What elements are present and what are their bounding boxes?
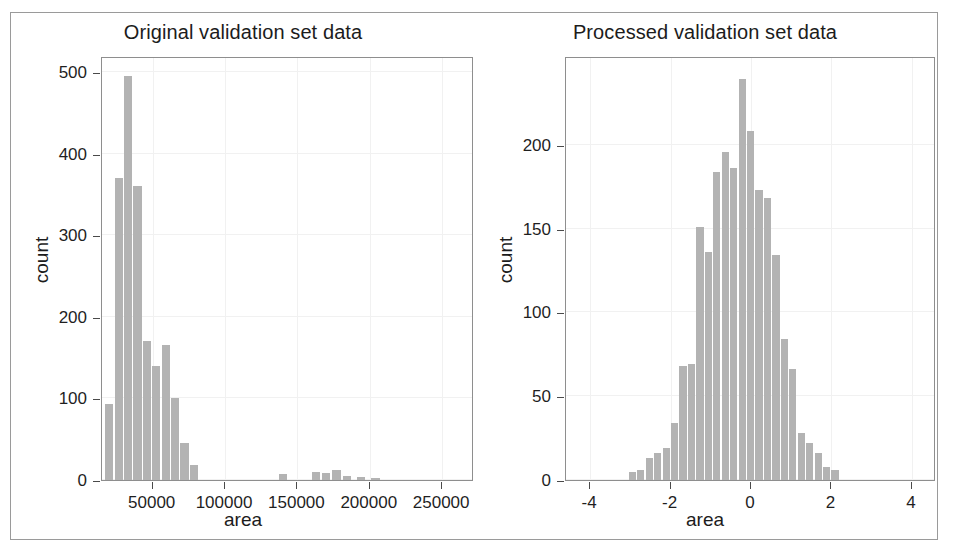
histogram-bar (152, 366, 160, 480)
histogram-bar (831, 470, 838, 480)
histogram-bar (312, 472, 320, 480)
histogram-bar (143, 341, 151, 480)
histogram-bar (823, 467, 830, 480)
histogram-bar (637, 470, 644, 480)
histogram-bar (764, 198, 771, 480)
y-tick-mark (93, 236, 100, 237)
gridline-vertical (831, 58, 832, 480)
y-tick-mark (93, 399, 100, 400)
histogram-bar (755, 190, 762, 480)
histogram-bar (190, 465, 198, 480)
histogram-bar (279, 474, 287, 480)
plot-inner-original (102, 58, 472, 480)
x-tick-mark (589, 482, 590, 489)
chart-title-processed: Processed validation set data (473, 21, 937, 44)
chart-panel-processed: Processed validation set data 0501001502… (473, 13, 937, 539)
y-tick-mark (93, 318, 100, 319)
chart-panel-original: Original validation set data 01002003004… (11, 13, 475, 539)
gridline-horizontal (102, 234, 472, 235)
y-tick-label: 200 (59, 308, 87, 328)
histogram-bar (679, 366, 686, 480)
y-tick-mark (93, 73, 100, 74)
y-tick-mark (557, 146, 564, 147)
histogram-bar (171, 398, 179, 480)
plot-area-original (101, 57, 473, 481)
chart-title-original: Original validation set data (11, 21, 475, 44)
histogram-bar (162, 345, 170, 480)
histogram-bar (646, 458, 653, 480)
gridline-vertical (590, 58, 591, 480)
histogram-bar (332, 470, 340, 480)
x-tick-mark (911, 482, 912, 489)
histogram-bar (357, 477, 365, 480)
y-tick-label: 100 (523, 303, 551, 323)
y-tick-label: 400 (59, 145, 87, 165)
gridline-vertical (671, 58, 672, 480)
x-tick-mark (152, 482, 153, 489)
histogram-bar (629, 472, 636, 480)
x-axis-label-original: area (11, 509, 475, 531)
x-tick-mark (830, 482, 831, 489)
x-tick-mark (369, 482, 370, 489)
y-tick-label: 300 (59, 226, 87, 246)
y-tick-label: 150 (523, 220, 551, 240)
histogram-bar (671, 423, 678, 480)
histogram-bar (654, 453, 661, 480)
histogram-bar (730, 168, 737, 480)
histogram-bar (115, 178, 123, 480)
figure-frame: Original validation set data 01002003004… (10, 12, 938, 540)
histogram-bar (371, 478, 379, 480)
x-axis-label-processed: area (473, 509, 937, 531)
x-tick-mark (441, 482, 442, 489)
plot-area-processed (565, 57, 935, 481)
histogram-bar (124, 76, 132, 480)
x-tick-mark (750, 482, 751, 489)
y-tick-label: 50 (532, 387, 551, 407)
histogram-bar (739, 79, 746, 480)
histogram-bar (798, 433, 805, 480)
y-tick-mark (93, 481, 100, 482)
gridline-vertical (442, 58, 443, 480)
y-axis-label-original: count (31, 237, 53, 283)
y-tick-label: 0 (78, 471, 87, 491)
x-tick-mark (296, 482, 297, 489)
y-tick-mark (93, 155, 100, 156)
gridline-vertical (912, 58, 913, 480)
histogram-bar (688, 364, 695, 480)
histogram-bar (133, 186, 141, 480)
y-tick-mark (557, 481, 564, 482)
y-tick-mark (557, 397, 564, 398)
gridline-horizontal (102, 71, 472, 72)
x-tick-mark (224, 482, 225, 489)
histogram-bar (105, 404, 113, 480)
plot-inner-processed (566, 58, 934, 480)
y-tick-label: 0 (542, 471, 551, 491)
histogram-bar (781, 339, 788, 480)
y-tick-label: 500 (59, 63, 87, 83)
histogram-bar (789, 369, 796, 480)
histogram-bar (663, 448, 670, 480)
x-tick-mark (670, 482, 671, 489)
histogram-bar (815, 453, 822, 480)
histogram-bar (696, 227, 703, 480)
gridline-vertical (225, 58, 226, 480)
y-tick-label: 200 (523, 136, 551, 156)
histogram-bar (322, 473, 330, 480)
histogram-bar (343, 476, 351, 480)
histogram-bar (747, 131, 754, 480)
histogram-bar (722, 152, 729, 480)
histogram-bar (705, 252, 712, 480)
gridline-horizontal (102, 316, 472, 317)
histogram-bar (772, 255, 779, 480)
y-axis-label-processed: count (495, 237, 517, 283)
histogram-bar (713, 172, 720, 480)
gridline-vertical (370, 58, 371, 480)
y-tick-mark (557, 313, 564, 314)
gridline-vertical (297, 58, 298, 480)
histogram-bar (806, 443, 813, 480)
y-tick-mark (557, 230, 564, 231)
histogram-bar (180, 443, 188, 480)
y-tick-label: 100 (59, 389, 87, 409)
gridline-horizontal (102, 153, 472, 154)
